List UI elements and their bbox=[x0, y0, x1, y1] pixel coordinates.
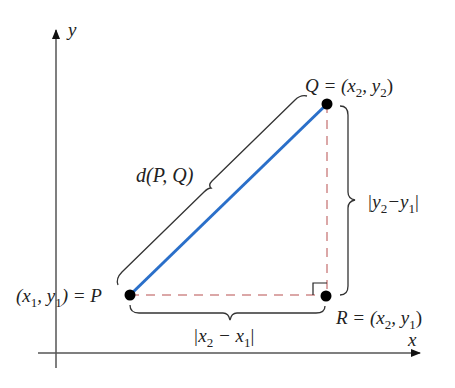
label-horizontal-distance: |x2 − x1| bbox=[193, 325, 254, 350]
label-p: (x1, y1) = P bbox=[16, 285, 102, 310]
point-r bbox=[321, 291, 332, 302]
label-r: R = (x2, y1) bbox=[335, 307, 422, 332]
y-axis-label: y bbox=[66, 19, 77, 40]
vertical-brace bbox=[340, 106, 355, 295]
label-q: Q = (x2, y2) bbox=[305, 75, 393, 100]
point-q bbox=[322, 99, 333, 110]
label-distance: d(P, Q) bbox=[136, 164, 194, 187]
hypotenuse-brace bbox=[117, 96, 307, 285]
distance-diagram: y x Q = (x2, y2) (x1, y1) = P R = (x2, y… bbox=[0, 0, 455, 388]
horizontal-brace bbox=[130, 305, 325, 320]
label-vertical-distance: |y2−y1| bbox=[367, 191, 419, 216]
point-p bbox=[125, 290, 136, 301]
hypotenuse-segment bbox=[130, 104, 327, 295]
x-axis-label: x bbox=[407, 329, 417, 350]
